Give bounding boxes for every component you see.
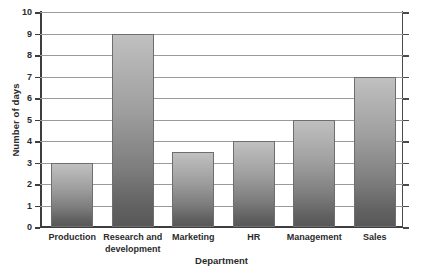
right-axis-tick-mark xyxy=(403,120,409,122)
right-axis-tick-mark xyxy=(403,206,409,208)
y-tick-label: 9 xyxy=(27,29,32,39)
bar-chart: Number of days 012345678910 ProductionRe… xyxy=(0,0,421,271)
right-axis-tick-mark xyxy=(403,227,409,229)
y-tick-label: 5 xyxy=(27,115,32,125)
y-tick-label: 8 xyxy=(27,50,32,60)
plot-area: 012345678910 xyxy=(40,11,403,228)
right-axis-tick-mark xyxy=(403,184,409,186)
y-tick-label: 0 xyxy=(27,222,32,232)
y-tick-label: 4 xyxy=(27,136,32,146)
y-tick-label: 2 xyxy=(27,179,32,189)
right-axis-tick-mark xyxy=(403,77,409,79)
y-tick-label: 6 xyxy=(27,93,32,103)
right-axis-tick-mark xyxy=(403,12,409,14)
y-tick-label: 3 xyxy=(27,158,32,168)
x-tick-label-line: development xyxy=(96,244,171,256)
bar xyxy=(172,152,214,227)
bar xyxy=(112,34,154,228)
bar xyxy=(293,120,335,228)
x-tick-label: Sales xyxy=(338,232,413,244)
y-axis-title: Number of days xyxy=(8,0,24,240)
bar xyxy=(354,77,396,228)
right-axis-tick-mark xyxy=(403,55,409,57)
y-tick-label: 7 xyxy=(27,72,32,82)
x-axis-title: Department xyxy=(40,255,403,266)
right-axis-tick-mark xyxy=(403,141,409,143)
bars-layer xyxy=(40,11,403,228)
bar xyxy=(233,141,275,227)
bar xyxy=(51,163,93,228)
y-tick-label: 10 xyxy=(22,7,32,17)
x-tick-label-line: Sales xyxy=(338,232,413,244)
right-axis-tick-mark xyxy=(403,34,409,36)
right-axis-tick-mark xyxy=(403,163,409,165)
y-tick-label: 1 xyxy=(27,201,32,211)
right-axis-tick-mark xyxy=(403,98,409,100)
